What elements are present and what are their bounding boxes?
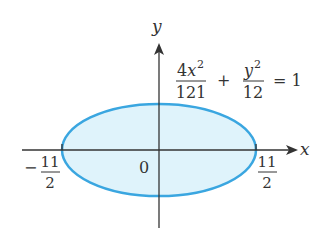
left-intercept-denominator: 2 <box>45 174 55 192</box>
equation-equals: = 1 <box>273 71 302 90</box>
equation-term1-numerator: 4x <box>177 61 196 80</box>
equation-plus: + <box>217 71 230 90</box>
right-intercept-denominator: 2 <box>262 174 272 192</box>
equation-term1-denominator: 121 <box>176 83 207 102</box>
left-intercept-sign: − <box>24 158 37 177</box>
ellipse-diagram: y x 0 − 11 2 11 2 4x 2 121 + y 2 12 = 1 <box>0 0 324 243</box>
y-axis-label: y <box>151 16 162 36</box>
origin-label: 0 <box>139 158 149 177</box>
ellipse-equation: 4x 2 121 + y 2 12 = 1 <box>176 58 302 102</box>
equation-term2-exponent: 2 <box>254 58 261 71</box>
right-intercept-numerator: 11 <box>257 153 276 171</box>
equation-term1-exponent: 2 <box>197 58 204 71</box>
equation-term2-numerator: y <box>243 61 254 80</box>
equation-term2-denominator: 12 <box>243 83 263 102</box>
left-intercept-numerator: 11 <box>40 153 59 171</box>
x-axis-label: x <box>300 139 310 159</box>
